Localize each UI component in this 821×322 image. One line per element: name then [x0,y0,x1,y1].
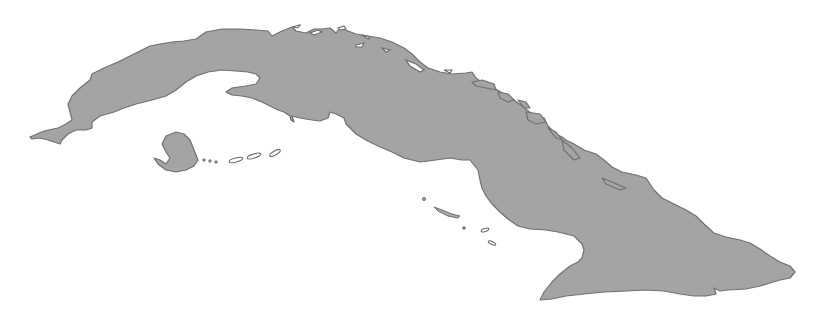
southern-cay [488,240,497,246]
cuba-map [0,0,821,322]
southern-cay [481,227,490,233]
southern-cay [229,156,244,163]
southern-cay [215,161,217,163]
southern-cay [434,207,460,218]
southern-cay [209,160,211,162]
northern-cay [292,25,300,28]
northern-cay [338,26,346,30]
southern-cay [269,148,281,157]
southern-cay [423,198,426,201]
southern-cay [247,152,262,160]
southern-cay [463,227,466,230]
isla-de-la-juventud [154,132,198,172]
southern-cay [203,159,205,161]
